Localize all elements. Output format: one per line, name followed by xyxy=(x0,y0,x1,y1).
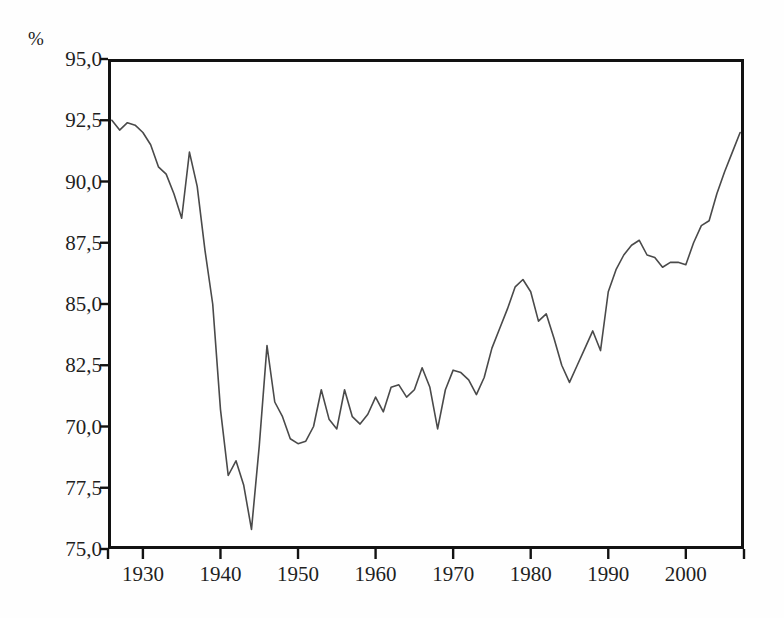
y-axis-tick-label: 90,0 xyxy=(10,169,102,194)
plot-frame xyxy=(108,59,744,549)
y-axis-tick-label: 87,5 xyxy=(10,230,102,255)
x-axis-tick-label: 2000 xyxy=(665,562,707,587)
x-axis-tick-label: 1990 xyxy=(587,562,629,587)
y-axis-tick-label: 95,0 xyxy=(10,47,102,72)
y-axis-tick-label: 82,5 xyxy=(10,353,102,378)
x-axis-tick-label: 1980 xyxy=(510,562,552,587)
x-axis-tick-label: 1950 xyxy=(277,562,319,587)
x-axis-tick-label: 1960 xyxy=(355,562,397,587)
y-axis-tick-label: 85,0 xyxy=(10,292,102,317)
x-axis-tick-marks xyxy=(108,549,744,559)
y-axis-tick-label: 70,0 xyxy=(10,414,102,439)
x-axis-tick-label: 1930 xyxy=(122,562,164,587)
x-axis-tick-label: 1970 xyxy=(432,562,474,587)
y-axis-tick-label: 77,5 xyxy=(10,475,102,500)
x-axis-tick-labels: 19301940195019601970198019902000 xyxy=(0,562,784,602)
y-axis-tick-label: 92,5 xyxy=(10,108,102,133)
chart-figure: % 95,092,590,087,585,082,570,077,575,0 1… xyxy=(0,0,784,618)
x-axis-tick-label: 1940 xyxy=(199,562,241,587)
y-axis-tick-label: 75,0 xyxy=(10,537,102,562)
y-axis-tick-labels: 95,092,590,087,585,082,570,077,575,0 xyxy=(6,0,102,618)
